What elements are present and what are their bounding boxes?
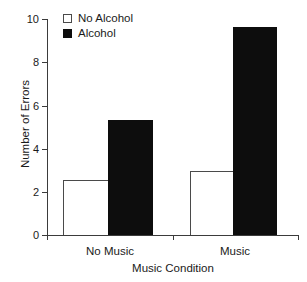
open-square-icon xyxy=(63,14,72,23)
y-tick-8 xyxy=(42,62,47,63)
legend-label-no-alcohol: No Alcohol xyxy=(78,12,133,25)
bar-music-alcohol xyxy=(233,27,277,236)
legend-item-no-alcohol: No Alcohol xyxy=(63,11,133,26)
x-tick-start xyxy=(47,235,48,240)
x-tick-end xyxy=(298,235,299,240)
x-tick-middle xyxy=(173,235,174,240)
x-tick-label-no-music: No Music xyxy=(65,245,155,258)
bar-no-music-alcohol xyxy=(108,120,153,236)
chart-legend: No Alcohol Alcohol xyxy=(63,11,133,41)
y-tick-10 xyxy=(42,19,47,20)
x-tick-label-music: Music xyxy=(190,245,280,258)
bar-music-no-alcohol xyxy=(190,171,234,236)
x-axis-title: Music Condition xyxy=(47,262,299,275)
y-axis-line xyxy=(47,19,48,236)
y-tick-4 xyxy=(42,149,47,150)
legend-label-alcohol: Alcohol xyxy=(78,27,116,40)
y-axis-title: Number of Errors xyxy=(19,49,31,199)
legend-item-alcohol: Alcohol xyxy=(63,26,133,41)
bar-no-music-no-alcohol xyxy=(63,180,109,236)
filled-square-icon xyxy=(63,29,72,38)
bar-chart: No Alcohol Alcohol 10 8 6 4 2 0 Number o… xyxy=(0,0,307,282)
y-tick-label-0: 0 xyxy=(9,230,39,241)
y-tick-6 xyxy=(42,106,47,107)
y-tick-label-10: 10 xyxy=(9,14,39,25)
y-tick-2 xyxy=(42,192,47,193)
